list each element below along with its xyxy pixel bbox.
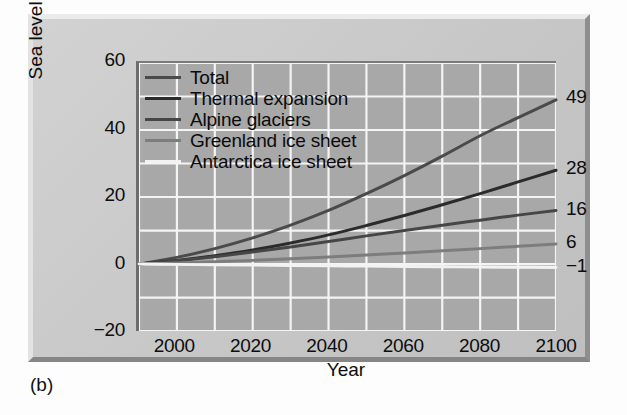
series-end-label: 49 <box>566 86 587 108</box>
y-tick-label: 60 <box>63 49 125 71</box>
x-tick-label: 2040 <box>287 335 367 357</box>
legend-label: Total <box>190 67 229 88</box>
y-axis-title: Sea level change (cm) <box>25 0 47 95</box>
series-end-label: −1 <box>566 255 587 277</box>
legend-item: Antarctica ice sheet <box>145 151 356 172</box>
legend-item: Thermal expansion <box>145 88 356 109</box>
legend-swatch-icon <box>145 139 181 142</box>
series-end-label: 28 <box>566 157 587 179</box>
y-tick-label: 40 <box>63 117 125 139</box>
legend-label: Alpine glaciers <box>190 109 311 130</box>
x-tick-label: 2060 <box>363 335 443 357</box>
x-tick-label: 2080 <box>440 335 520 357</box>
y-tick-label: −20 <box>63 319 125 341</box>
curve-4 <box>139 264 556 267</box>
legend-item: Greenland ice sheet <box>145 130 356 151</box>
figure-caption: (b) <box>30 374 53 396</box>
legend-item: Total <box>145 67 356 88</box>
x-tick-label: 2000 <box>134 335 214 357</box>
series-end-label: 6 <box>566 231 576 253</box>
x-axis-title: Year <box>136 359 556 381</box>
legend: TotalThermal expansionAlpine glaciersGre… <box>145 67 356 172</box>
y-tick-label: 0 <box>63 252 125 274</box>
x-tick-label: 2100 <box>516 335 596 357</box>
legend-item: Alpine glaciers <box>145 109 356 130</box>
legend-label: Thermal expansion <box>190 88 348 109</box>
legend-swatch-icon <box>145 118 181 121</box>
legend-swatch-icon <box>145 76 181 79</box>
legend-swatch-icon <box>145 97 181 100</box>
figure-plaque: −200204060 Sea level change (cm) Year To… <box>28 14 590 362</box>
legend-swatch-icon <box>145 160 181 163</box>
series-end-label: 16 <box>566 198 587 220</box>
y-tick-label: 20 <box>63 184 125 206</box>
figure-root: −200204060 Sea level change (cm) Year To… <box>0 0 627 415</box>
legend-label: Greenland ice sheet <box>190 130 356 151</box>
x-tick-label: 2020 <box>211 335 291 357</box>
curve-3 <box>139 244 556 264</box>
legend-label: Antarctica ice sheet <box>190 151 352 172</box>
